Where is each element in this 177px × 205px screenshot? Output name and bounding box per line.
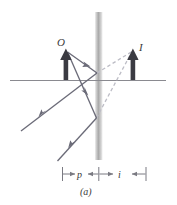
- reflected-ray-2: [58, 118, 97, 161]
- image-arrow-head: [127, 49, 138, 61]
- object-arrow-shaft: [64, 58, 69, 80]
- figure-caption: (a): [80, 187, 92, 197]
- incident-ray-1-arrowhead: [82, 62, 90, 67]
- image-distance-label: i: [118, 170, 121, 180]
- object-label: O: [57, 37, 65, 48]
- ray-diagram-figure: O I p i (a): [0, 0, 177, 205]
- reflected-ray-1: [21, 73, 97, 131]
- figure-canvas: [0, 0, 177, 205]
- mirror-surface: [95, 12, 103, 160]
- image-label: I: [139, 42, 143, 53]
- object-distance-label: p: [77, 170, 82, 180]
- image-arrow-shaft: [131, 58, 136, 80]
- incident-ray-2-arrowhead: [81, 87, 88, 96]
